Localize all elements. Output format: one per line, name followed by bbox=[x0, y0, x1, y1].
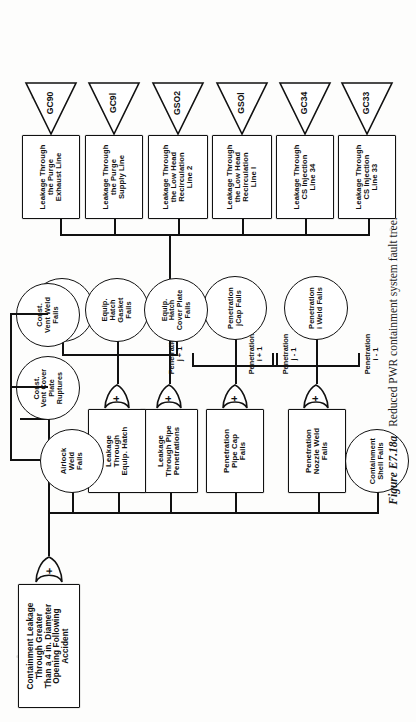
gate-symbol: + bbox=[164, 392, 174, 405]
basic-event-airlock-weld[interactable]: Airlock Weld Fails bbox=[40, 429, 104, 493]
connector-bus bbox=[60, 234, 370, 236]
transfer-label: GC33 bbox=[362, 83, 371, 123]
intermediate-label: Leakage Through Equip. Hatch bbox=[105, 427, 130, 476]
gate-equip-hatch[interactable]: + bbox=[103, 383, 131, 409]
basic-event-equip-hatch-cover[interactable]: Equip. Hatch Cover Plate Fails bbox=[144, 278, 208, 342]
transfer-triangle-gso1[interactable]: GSOl bbox=[215, 81, 269, 135]
basic-event-label: Equip. Hatch Cover Plate Fails bbox=[161, 290, 192, 331]
connector bbox=[10, 459, 40, 461]
intermediate-label: Leakage Through Pipe Penetrations bbox=[157, 425, 182, 476]
transfer-label: GC90 bbox=[46, 83, 55, 123]
connector bbox=[72, 492, 74, 514]
connector bbox=[368, 218, 370, 236]
gate-top[interactable]: + bbox=[34, 555, 64, 583]
transfer-box-gso1[interactable]: Leakage Through the Low Head Recirculati… bbox=[212, 135, 272, 219]
connector bbox=[305, 218, 307, 236]
basic-event-const-vent-weld[interactable]: Const. Vent Weld Fails bbox=[16, 283, 80, 347]
transfer-label: GC9l bbox=[109, 83, 118, 123]
transfer-label: GSO2 bbox=[173, 83, 182, 123]
basic-event-label: Airlock Weld Fails bbox=[60, 448, 84, 474]
basic-event-const-vent-cover-plate[interactable]: Const. Vent Cover Plate Ruptures bbox=[16, 356, 80, 420]
intermediate-label: Penetration Pipe Cap Fails bbox=[223, 429, 248, 473]
basic-event-label: Penetration i Weld Fails bbox=[308, 287, 324, 329]
connector-bus bbox=[48, 512, 378, 514]
connector bbox=[117, 354, 119, 384]
intermediate-penetration-pipe-cap[interactable]: Penetration Pipe Cap Fails bbox=[206, 409, 264, 493]
basic-event-label: Const. Vent Weld Fails bbox=[36, 297, 60, 333]
transfer-box-label: Leakage Through the Purge Exhaust Line bbox=[39, 145, 63, 210]
connector bbox=[10, 313, 48, 315]
top-event-label: Containment Leakage Through Greater Than… bbox=[27, 603, 70, 690]
transfer-triangle-gc91[interactable]: GC9l bbox=[87, 81, 141, 135]
transfer-box-gso2[interactable]: Leakage Through the Low Head Recirculati… bbox=[148, 135, 208, 219]
anno-j-minus-1: Penetration j - 1 bbox=[282, 322, 298, 386]
transfer-label: GSOl bbox=[237, 83, 246, 123]
rotated-figure-wrapper: Containment Leakage Through Greater Than… bbox=[0, 0, 416, 722]
connector-bracket bbox=[192, 353, 194, 367]
figure-caption: Figure E7.18a Reduced PWR containment sy… bbox=[376, 0, 410, 722]
transfer-label: GC34 bbox=[300, 83, 309, 123]
connector bbox=[318, 492, 320, 514]
figure-number: Figure E7.18a bbox=[387, 436, 399, 505]
transfer-box-gc34[interactable]: Leakage Through CS Injection Line 34 bbox=[276, 135, 334, 219]
intermediate-label: Penetration Nozzle Weld Fails bbox=[305, 428, 330, 474]
transfer-triangle-gc34[interactable]: GC34 bbox=[278, 81, 332, 135]
connector-bracket bbox=[276, 353, 278, 367]
transfer-box-label: Leakage Through the Purge Supply Line bbox=[102, 145, 126, 210]
basic-event-label: Const. Vent Cover Plate Ruptures bbox=[33, 369, 64, 408]
scanned-page: Containment Leakage Through Greater Than… bbox=[0, 0, 416, 722]
connector bbox=[48, 512, 50, 556]
connector-bus bbox=[62, 354, 178, 356]
connector bbox=[114, 218, 116, 236]
transfer-box-gc90[interactable]: Leakage Through the Purge Exhaust Line bbox=[22, 135, 80, 219]
connector bbox=[10, 313, 12, 461]
transfer-triangle-gso2[interactable]: GSO2 bbox=[151, 81, 205, 135]
connector bbox=[10, 386, 48, 388]
connector bbox=[235, 492, 237, 514]
gate-nozzle-weld[interactable]: + bbox=[302, 383, 330, 409]
intermediate-leakage-pipe-penetrations[interactable]: Leakage Through Pipe Penetrations bbox=[140, 409, 198, 493]
connector-bracket bbox=[192, 365, 278, 367]
gate-symbol: + bbox=[230, 392, 240, 405]
connector bbox=[242, 218, 244, 236]
gate-symbol: + bbox=[112, 392, 122, 405]
connector bbox=[235, 338, 237, 384]
basic-event-penetration-j-cap[interactable]: Penetration jCap Fails bbox=[203, 276, 267, 340]
connector bbox=[170, 492, 172, 514]
figure-caption-text: Reduced PWR containment system fault tre… bbox=[387, 217, 399, 427]
gate-pipe-pen[interactable]: + bbox=[155, 383, 183, 409]
transfer-triangle-gc90[interactable]: GC90 bbox=[24, 81, 78, 135]
basic-event-label: Equip. Hatch Gasket Fails bbox=[101, 297, 132, 322]
transfer-box-label: Leakage Through the Low Head Recirculati… bbox=[226, 145, 258, 210]
gate-symbol: + bbox=[311, 392, 321, 405]
connector-bracket bbox=[358, 353, 360, 367]
connector bbox=[60, 218, 62, 236]
transfer-box-label: Leakage Through the Low Head Recirculati… bbox=[162, 145, 194, 210]
transfer-box-label: Leakage Through CS Injection Line 34 bbox=[293, 145, 317, 210]
connector bbox=[118, 492, 120, 514]
basic-event-label: Penetration jCap Fails bbox=[227, 287, 243, 329]
fault-tree-canvas: Containment Leakage Through Greater Than… bbox=[0, 0, 416, 722]
connector bbox=[316, 338, 318, 384]
connector bbox=[178, 218, 180, 236]
connector bbox=[117, 340, 119, 356]
gate-pipe-cap[interactable]: + bbox=[221, 383, 249, 409]
gate-symbol: + bbox=[44, 564, 55, 578]
connector bbox=[176, 340, 178, 356]
transfer-box-gc91[interactable]: Leakage Through the Purge Supply Line bbox=[85, 135, 143, 219]
basic-event-equip-hatch-gasket[interactable]: Equip. Hatch Gasket Fails bbox=[85, 278, 149, 342]
top-event-box[interactable]: Containment Leakage Through Greater Than… bbox=[18, 584, 80, 708]
intermediate-penetration-nozzle-weld[interactable]: Penetration Nozzle Weld Fails bbox=[288, 409, 346, 493]
